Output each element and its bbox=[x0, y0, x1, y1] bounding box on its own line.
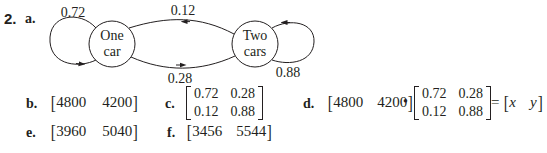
vector-entry: 5040 bbox=[102, 123, 132, 140]
matrix-cell: 0.28 bbox=[459, 86, 484, 102]
multiply-operator: • bbox=[403, 94, 408, 110]
right-bracket: ] bbox=[133, 122, 138, 141]
part-b-vector: [ 4800 4200 ] bbox=[50, 93, 139, 112]
part-e-label: e. bbox=[26, 125, 36, 141]
right-bracket: ] bbox=[267, 122, 272, 141]
left-bracket: [ bbox=[187, 122, 192, 141]
result-x: x bbox=[509, 94, 516, 111]
left-bracket: [ bbox=[328, 93, 333, 112]
matrix-cell: 0.88 bbox=[231, 104, 256, 120]
part-d-matrix: 0.72 0.28 0.12 0.88 bbox=[414, 86, 491, 120]
equals-sign: = bbox=[491, 94, 499, 111]
prob-two-to-two: 0.88 bbox=[276, 65, 301, 80]
vector-entry: 3456 bbox=[192, 123, 222, 140]
part-f-label: f. bbox=[167, 125, 175, 141]
vector-entry: 5544 bbox=[236, 123, 266, 140]
state-two-line1: Two bbox=[243, 28, 268, 43]
part-d-result-vector: [ x y ] bbox=[503, 93, 543, 112]
left-bracket: [ bbox=[504, 93, 509, 112]
matrix-cell: 0.72 bbox=[194, 86, 219, 102]
matrix-right-bracket bbox=[258, 86, 263, 120]
matrix-cell: 0.28 bbox=[231, 86, 256, 102]
result-y: y bbox=[530, 94, 537, 111]
arc-two-to-one: 0.12 bbox=[129, 3, 234, 34]
part-c-label: c. bbox=[165, 96, 175, 112]
state-two-line2: cars bbox=[244, 44, 267, 59]
matrix-left-bracket bbox=[414, 86, 419, 120]
matrix-left-bracket bbox=[186, 86, 191, 120]
state-one-line2: car bbox=[103, 44, 120, 59]
part-e-vector: [ 3960 5040 ] bbox=[50, 122, 139, 141]
part-d-vector: [ 4800 4200 ] bbox=[327, 93, 414, 112]
matrix-cell: 0.12 bbox=[194, 104, 219, 120]
right-bracket: ] bbox=[408, 93, 413, 112]
state-one-line1: One bbox=[100, 28, 123, 43]
part-b-label: b. bbox=[26, 96, 37, 112]
self-loop-one-car: 0.72 bbox=[50, 5, 96, 64]
part-c-matrix: 0.72 0.28 0.12 0.88 bbox=[186, 86, 263, 120]
left-bracket: [ bbox=[51, 93, 56, 112]
vector-entry: 4800 bbox=[56, 94, 86, 111]
matrix-cell: 0.12 bbox=[422, 104, 447, 120]
vector-entry: 3960 bbox=[56, 123, 86, 140]
state-two-cars: Two cars bbox=[232, 21, 278, 67]
prob-one-to-one: 0.72 bbox=[61, 5, 86, 20]
right-bracket: ] bbox=[537, 93, 542, 112]
right-bracket: ] bbox=[133, 93, 138, 112]
matrix-cell: 0.88 bbox=[459, 104, 484, 120]
arc-one-to-two: 0.28 bbox=[131, 56, 235, 86]
part-f-vector: [ 3456 5544 ] bbox=[186, 122, 273, 141]
transition-diagram: One car Two cars 0.72 0.12 0.28 0.88 bbox=[0, 0, 330, 86]
prob-one-to-two: 0.28 bbox=[168, 71, 193, 86]
vector-entry: 4800 bbox=[333, 94, 363, 111]
prob-two-to-one: 0.12 bbox=[171, 3, 196, 18]
vector-entry: 4200 bbox=[102, 94, 132, 111]
part-d-label: d. bbox=[303, 96, 314, 112]
left-bracket: [ bbox=[51, 122, 56, 141]
self-loop-two-cars: 0.88 bbox=[272, 23, 314, 81]
matrix-cell: 0.72 bbox=[422, 86, 447, 102]
